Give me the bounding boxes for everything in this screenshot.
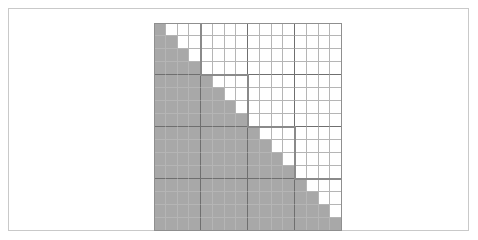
matrix-cell-empty — [330, 75, 342, 88]
matrix-cell-empty — [330, 23, 342, 36]
matrix-cell-filled — [154, 127, 166, 140]
matrix-cell-filled — [166, 179, 178, 192]
matrix-cell-filled — [189, 218, 201, 231]
matrix-cell-empty — [225, 49, 237, 62]
matrix-cell-empty — [236, 49, 248, 62]
matrix-cell-empty — [272, 62, 284, 75]
matrix-cell-filled — [225, 140, 237, 153]
matrix-cell-filled — [248, 192, 260, 205]
matrix-cell-empty — [236, 23, 248, 36]
matrix-cell-empty — [236, 62, 248, 75]
matrix-cell-empty — [272, 49, 284, 62]
matrix-cell-empty — [295, 23, 307, 36]
matrix-cell-empty — [283, 114, 295, 127]
matrix-cell-empty — [295, 114, 307, 127]
matrix-cell-filled — [201, 101, 213, 114]
matrix-cell-filled — [236, 218, 248, 231]
matrix-cell-filled — [330, 218, 342, 231]
matrix-cell-empty — [330, 36, 342, 49]
matrix-cell-filled — [236, 166, 248, 179]
matrix-cell-filled — [236, 127, 248, 140]
matrix-cell-filled — [225, 218, 237, 231]
matrix-cell-empty — [248, 23, 260, 36]
matrix-cell-filled — [260, 166, 272, 179]
matrix-cell-empty — [260, 62, 272, 75]
matrix-cell-filled — [189, 166, 201, 179]
matrix-cell-filled — [213, 205, 225, 218]
page-frame — [8, 8, 469, 231]
matrix-cell-empty — [272, 36, 284, 49]
matrix-cell-empty — [213, 49, 225, 62]
matrix-cell-empty — [213, 62, 225, 75]
matrix-cell-filled — [236, 179, 248, 192]
matrix-cell-filled — [295, 192, 307, 205]
matrix-cell-filled — [201, 127, 213, 140]
matrix-cell-empty — [319, 140, 331, 153]
matrix-cell-empty — [201, 23, 213, 36]
matrix-cell-empty — [272, 114, 284, 127]
matrix-cell-filled — [178, 153, 190, 166]
matrix-cell-filled — [295, 205, 307, 218]
matrix-cell-empty — [248, 75, 260, 88]
matrix-cell-empty — [307, 49, 319, 62]
matrix-cell-filled — [213, 127, 225, 140]
matrix-cell-empty — [307, 166, 319, 179]
matrix-cell-empty — [201, 49, 213, 62]
matrix-cell-empty — [260, 127, 272, 140]
matrix-cell-empty — [213, 36, 225, 49]
matrix-cell-filled — [248, 140, 260, 153]
matrix-cell-filled — [248, 205, 260, 218]
matrix-cell-empty — [213, 75, 225, 88]
matrix-cell-filled — [283, 218, 295, 231]
matrix-cell-empty — [260, 49, 272, 62]
matrix-cell-empty — [272, 127, 284, 140]
matrix-cell-filled — [154, 62, 166, 75]
matrix-cell-filled — [260, 192, 272, 205]
matrix-cell-empty — [248, 62, 260, 75]
matrix-cell-filled — [166, 49, 178, 62]
matrix-cell-empty — [307, 62, 319, 75]
matrix-cell-filled — [178, 75, 190, 88]
matrix-cell-empty — [225, 88, 237, 101]
matrix-cell-filled — [166, 153, 178, 166]
matrix-cell-filled — [248, 218, 260, 231]
matrix-cell-filled — [166, 205, 178, 218]
matrix-cell-filled — [178, 114, 190, 127]
matrix-cell-empty — [319, 88, 331, 101]
matrix-cell-empty — [330, 101, 342, 114]
matrix-cell-filled — [213, 101, 225, 114]
matrix-cell-filled — [166, 127, 178, 140]
matrix-cell-filled — [225, 101, 237, 114]
matrix-cell-empty — [283, 36, 295, 49]
matrix-cell-empty — [178, 23, 190, 36]
matrix-cell-filled — [178, 101, 190, 114]
matrix-cell-filled — [248, 179, 260, 192]
matrix-cell-empty — [272, 88, 284, 101]
matrix-cell-empty — [307, 88, 319, 101]
matrix-cell-empty — [260, 88, 272, 101]
matrix-cell-filled — [260, 218, 272, 231]
matrix-cell-empty — [319, 166, 331, 179]
matrix-cell-filled — [213, 218, 225, 231]
matrix-cell-filled — [295, 218, 307, 231]
matrix-cell-filled — [319, 205, 331, 218]
matrix-cell-filled — [201, 192, 213, 205]
matrix-cell-empty — [283, 49, 295, 62]
matrix-cell-filled — [225, 166, 237, 179]
matrix-cell-filled — [154, 49, 166, 62]
matrix-cell-filled — [248, 127, 260, 140]
matrix-cell-empty — [283, 140, 295, 153]
matrix-cell-filled — [236, 153, 248, 166]
matrix-cell-filled — [225, 192, 237, 205]
matrix-cell-filled — [201, 166, 213, 179]
matrix-cell-empty — [189, 23, 201, 36]
matrix-cell-filled — [213, 140, 225, 153]
matrix-cell-empty — [319, 23, 331, 36]
matrix-figure — [154, 23, 342, 231]
matrix-cell-empty — [213, 23, 225, 36]
matrix-cell-empty — [283, 62, 295, 75]
matrix-cell-filled — [260, 205, 272, 218]
matrix-cell-empty — [225, 62, 237, 75]
matrix-cell-filled — [166, 218, 178, 231]
matrix-cell-empty — [225, 75, 237, 88]
